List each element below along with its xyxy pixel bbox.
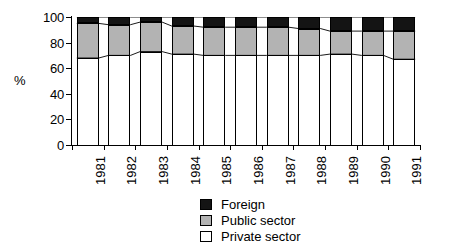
x-tick-label: 1984 bbox=[189, 156, 202, 185]
x-tick-label: 1986 bbox=[252, 156, 265, 185]
x-tick-label: 1983 bbox=[157, 156, 170, 185]
legend-swatch-icon bbox=[200, 231, 212, 242]
bar-segment-private-sector[interactable] bbox=[330, 54, 352, 145]
bar-segment-private-sector[interactable] bbox=[108, 55, 130, 145]
bar-segment-public-sector[interactable] bbox=[298, 29, 320, 56]
x-tick-label: 1981 bbox=[94, 156, 107, 185]
legend-label: Foreign bbox=[221, 198, 265, 211]
bar-segment-private-sector[interactable] bbox=[362, 55, 384, 145]
bar-segment-public-sector[interactable] bbox=[172, 26, 194, 54]
y-tick-mark bbox=[66, 94, 71, 95]
bar-segment-foreign[interactable] bbox=[140, 17, 162, 22]
bar-group[interactable] bbox=[393, 17, 415, 145]
x-tick-mark bbox=[262, 145, 263, 150]
bar-segment-public-sector[interactable] bbox=[140, 22, 162, 51]
bar-segment-foreign[interactable] bbox=[330, 17, 352, 31]
x-tick-mark bbox=[420, 145, 421, 150]
bar-group[interactable] bbox=[140, 17, 162, 145]
chart-figure: % 020406080100 1981198219831984198519861… bbox=[0, 0, 452, 249]
plot-area bbox=[72, 17, 420, 145]
legend-item[interactable]: Private sector bbox=[200, 228, 300, 244]
bar-segment-public-sector[interactable] bbox=[77, 23, 99, 58]
x-tick-mark bbox=[167, 145, 168, 150]
legend-swatch-icon bbox=[200, 199, 212, 210]
bar-group[interactable] bbox=[172, 17, 194, 145]
bar-segment-private-sector[interactable] bbox=[393, 59, 415, 145]
x-tick-mark bbox=[230, 145, 231, 150]
bar-segment-foreign[interactable] bbox=[267, 17, 289, 27]
x-tick-label: 1988 bbox=[315, 156, 328, 185]
x-tick-mark bbox=[104, 145, 105, 150]
y-tick-label: 20 bbox=[50, 113, 64, 126]
bar-group[interactable] bbox=[267, 17, 289, 145]
chart-legend: ForeignPublic sectorPrivate sector bbox=[200, 196, 300, 244]
bar-segment-private-sector[interactable] bbox=[235, 55, 257, 145]
x-tick-label: 1989 bbox=[347, 156, 360, 185]
bar-segment-private-sector[interactable] bbox=[172, 54, 194, 145]
bar-segment-public-sector[interactable] bbox=[203, 27, 225, 55]
y-tick-mark bbox=[66, 119, 71, 120]
y-tick-mark bbox=[66, 43, 71, 44]
y-tick-mark bbox=[66, 145, 71, 146]
bar-group[interactable] bbox=[77, 17, 99, 145]
legend-label: Public sector bbox=[221, 214, 295, 227]
y-tick-label: 60 bbox=[50, 62, 64, 75]
bar-segment-private-sector[interactable] bbox=[77, 58, 99, 145]
y-tick-mark bbox=[66, 17, 71, 18]
x-tick-label: 1982 bbox=[125, 156, 138, 185]
bar-segment-public-sector[interactable] bbox=[267, 27, 289, 55]
bar-segment-public-sector[interactable] bbox=[330, 31, 352, 54]
bar-group[interactable] bbox=[298, 17, 320, 145]
y-tick-label: 40 bbox=[50, 88, 64, 101]
x-tick-label: 1990 bbox=[379, 156, 392, 185]
legend-item[interactable]: Public sector bbox=[200, 212, 300, 228]
y-tick-label: 0 bbox=[57, 139, 64, 152]
x-tick-mark bbox=[199, 145, 200, 150]
bar-segment-public-sector[interactable] bbox=[362, 31, 384, 55]
bar-segment-public-sector[interactable] bbox=[393, 31, 415, 59]
bar-group[interactable] bbox=[235, 17, 257, 145]
x-axis-line bbox=[71, 145, 421, 146]
legend-swatch-icon bbox=[200, 215, 212, 226]
bar-segment-foreign[interactable] bbox=[298, 17, 320, 29]
bar-group[interactable] bbox=[362, 17, 384, 145]
x-tick-label: 1987 bbox=[284, 156, 297, 185]
bar-segment-foreign[interactable] bbox=[203, 17, 225, 27]
x-tick-label: 1985 bbox=[220, 156, 233, 185]
x-tick-mark bbox=[325, 145, 326, 150]
bar-segment-foreign[interactable] bbox=[393, 17, 415, 31]
bar-segment-private-sector[interactable] bbox=[140, 52, 162, 145]
y-tick-mark bbox=[66, 68, 71, 69]
y-tick-label: 80 bbox=[50, 37, 64, 50]
bar-segment-foreign[interactable] bbox=[108, 17, 130, 25]
x-tick-mark bbox=[293, 145, 294, 150]
bar-segment-foreign[interactable] bbox=[362, 17, 384, 31]
y-axis-title: % bbox=[14, 74, 26, 87]
x-tick-mark bbox=[72, 145, 73, 150]
legend-item[interactable]: Foreign bbox=[200, 196, 300, 212]
legend-label: Private sector bbox=[221, 230, 300, 243]
bar-segment-public-sector[interactable] bbox=[235, 27, 257, 55]
x-tick-mark bbox=[135, 145, 136, 150]
x-tick-label: 1991 bbox=[410, 156, 423, 185]
bar-segment-foreign[interactable] bbox=[235, 17, 257, 27]
x-tick-mark bbox=[357, 145, 358, 150]
bar-group[interactable] bbox=[108, 17, 130, 145]
bar-segment-private-sector[interactable] bbox=[267, 55, 289, 145]
bar-segment-foreign[interactable] bbox=[77, 17, 99, 23]
x-tick-mark bbox=[388, 145, 389, 150]
bar-group[interactable] bbox=[203, 17, 225, 145]
bar-segment-public-sector[interactable] bbox=[108, 25, 130, 56]
bar-segment-private-sector[interactable] bbox=[298, 55, 320, 145]
y-tick-label: 100 bbox=[43, 11, 64, 24]
bar-group[interactable] bbox=[330, 17, 352, 145]
bar-segment-foreign[interactable] bbox=[172, 17, 194, 26]
bar-segment-private-sector[interactable] bbox=[203, 55, 225, 145]
